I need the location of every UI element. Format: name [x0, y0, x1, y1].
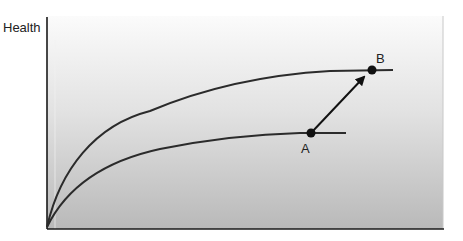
plot-area: [47, 16, 443, 229]
point-b-marker: [368, 66, 377, 75]
point-a-marker: [307, 129, 316, 138]
point-b-label: B: [376, 51, 385, 66]
chart-canvas: A B: [0, 0, 463, 241]
point-a-label: A: [301, 141, 310, 156]
